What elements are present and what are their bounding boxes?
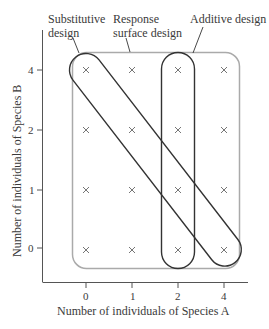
marker-row-1 — [83, 187, 227, 193]
grid-markers — [83, 67, 227, 253]
substitutive-design-capsule — [63, 47, 248, 273]
additive-label: Additive design — [190, 12, 266, 26]
y-tick-label-1: 1 — [29, 184, 35, 196]
x-tick-label-2: 2 — [175, 290, 181, 302]
response-label-line1: Response — [113, 12, 159, 26]
response-leader-line — [126, 38, 130, 52]
design-diagram — [0, 0, 269, 329]
substitutive-label-line1: Substitutive — [48, 12, 105, 26]
additive-leader-line — [193, 27, 203, 53]
x-tick-label-4: 4 — [221, 290, 227, 302]
x-tick-label-1: 1 — [130, 290, 136, 302]
substitutive-label-line2: design — [48, 26, 79, 40]
y-tick-label-0: 0 — [28, 242, 34, 254]
substitutive-leader-line — [73, 38, 79, 53]
response-surface-box — [73, 53, 240, 269]
additive-design-capsule — [162, 53, 195, 269]
x-axis-title: Number of individuals of Species A — [57, 304, 229, 319]
y-axis-title: Number of individuals of Species B — [10, 85, 25, 257]
response-label-line2: surface design — [113, 26, 182, 40]
y-tick-label-4: 4 — [28, 64, 34, 76]
x-tick-label-0: 0 — [83, 290, 89, 302]
y-tick-label-2: 2 — [28, 124, 34, 136]
